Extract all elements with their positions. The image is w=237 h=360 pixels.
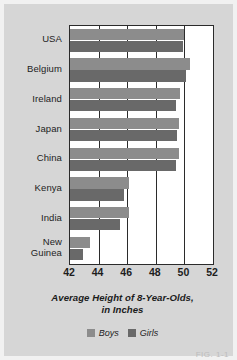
- x-tick-label-48: 48: [149, 266, 161, 278]
- bar-india-girls: [70, 219, 120, 230]
- axis-title-line1: Average Height of 8-Year-Olds,: [51, 292, 193, 303]
- x-tick-label-42: 42: [63, 266, 75, 278]
- plot-area: [69, 25, 214, 265]
- bar-ireland-girls: [70, 100, 176, 111]
- bar-new-guinea-girls: [70, 249, 83, 260]
- x-tick-label-46: 46: [120, 266, 132, 278]
- bar-japan-boys: [70, 118, 179, 129]
- bar-usa-girls: [70, 41, 183, 52]
- figure-caption: FIG. 1-1: [196, 350, 229, 359]
- bar-belgium-boys: [70, 58, 190, 69]
- x-tick-label-44: 44: [92, 266, 104, 278]
- bar-group: [70, 86, 213, 116]
- bar-group: [70, 145, 213, 175]
- category-label-usa: USA: [4, 34, 62, 45]
- axis-title: Average Height of 8-Year-Olds, in Inches: [14, 292, 231, 316]
- legend-swatch-girls-icon: [128, 329, 136, 337]
- figure-container: USABelgiumIrelandJapanChinaKenyaIndiaNew…: [0, 0, 237, 360]
- bar-kenya-boys: [70, 177, 129, 188]
- bar-group: [70, 205, 213, 235]
- bar-group: [70, 56, 213, 86]
- category-label-part: Guinea: [31, 247, 62, 258]
- legend-label-boys: Boys: [99, 328, 119, 338]
- x-axis-tick-labels: 424446485052: [69, 266, 212, 280]
- bar-belgium-girls: [70, 70, 186, 81]
- bar-japan-girls: [70, 130, 177, 141]
- legend-swatch-boys-icon: [87, 329, 95, 337]
- category-label-japan: Japan: [4, 124, 62, 135]
- category-label-india: India: [4, 213, 62, 224]
- category-label-new-guinea: NewGuinea: [4, 237, 62, 258]
- bar-ireland-boys: [70, 88, 180, 99]
- bar-usa-boys: [70, 29, 184, 40]
- axis-title-line2: in Inches: [101, 304, 143, 315]
- category-label-china: China: [4, 153, 62, 164]
- legend-label-girls: Girls: [140, 328, 159, 338]
- bar-group: [70, 26, 213, 56]
- legend-item-boys[interactable]: Boys: [87, 328, 119, 338]
- legend-item-girls[interactable]: Girls: [128, 328, 159, 338]
- category-label-ireland: Ireland: [4, 94, 62, 105]
- category-label-kenya: Kenya: [4, 183, 62, 194]
- bar-new-guinea-boys: [70, 237, 90, 248]
- bar-group: [70, 115, 213, 145]
- bar-group: [70, 175, 213, 205]
- x-tick-label-52: 52: [206, 266, 218, 278]
- chart-legend: BoysGirls: [4, 328, 237, 338]
- category-axis-labels: USABelgiumIrelandJapanChinaKenyaIndiaNew…: [4, 25, 65, 263]
- category-label-belgium: Belgium: [4, 64, 62, 75]
- bar-group: [70, 234, 213, 264]
- x-tick-label-50: 50: [178, 266, 190, 278]
- bar-china-girls: [70, 160, 176, 171]
- category-label-part: New: [43, 236, 62, 247]
- bar-china-boys: [70, 148, 179, 159]
- bar-india-boys: [70, 207, 129, 218]
- bar-kenya-girls: [70, 189, 124, 200]
